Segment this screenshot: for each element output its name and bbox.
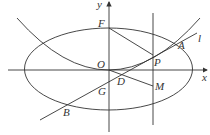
- parabola: [17, 18, 200, 70]
- label-y-axis: y: [97, 0, 102, 10]
- label-O: O: [97, 59, 105, 70]
- label-l: l: [198, 33, 201, 44]
- ellipse: [25, 28, 193, 110]
- label-D: D: [117, 76, 125, 87]
- diagram-canvas: [0, 0, 210, 135]
- label-B: B: [63, 107, 70, 118]
- label-F: F: [98, 18, 105, 29]
- label-A: A: [178, 40, 185, 51]
- label-x-axis: x: [202, 72, 207, 83]
- label-P: P: [154, 57, 161, 68]
- label-M: M: [155, 81, 164, 92]
- label-G: G: [98, 86, 106, 97]
- geometry-diagram: y x F O P A l D M G B: [0, 0, 210, 135]
